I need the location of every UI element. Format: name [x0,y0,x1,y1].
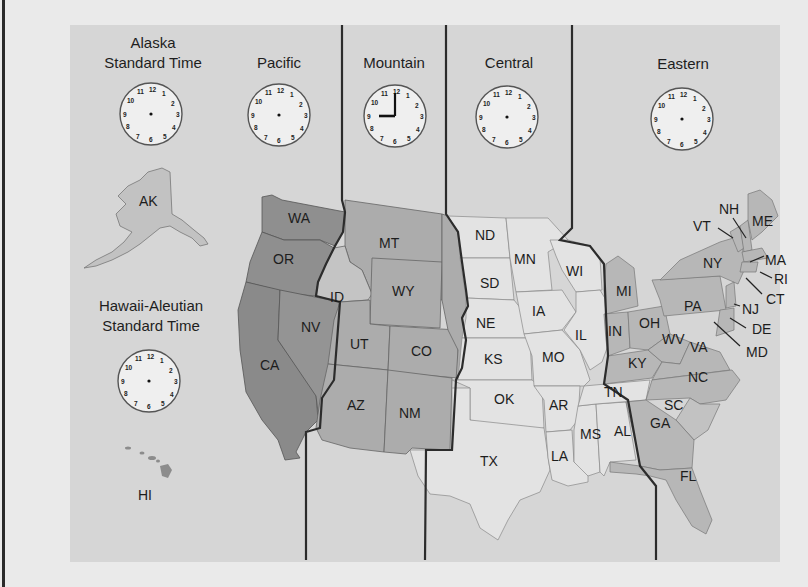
svg-text:2: 2 [171,100,175,107]
svg-text:3: 3 [707,116,711,123]
svg-text:1: 1 [518,93,522,100]
svg-text:1: 1 [162,90,166,97]
label-mo: MO [542,349,565,365]
label-oh: OH [639,315,660,331]
label-ar: AR [549,397,568,413]
svg-text:10: 10 [658,102,666,109]
svg-text:11: 11 [493,91,500,98]
svg-text:8: 8 [254,124,258,131]
svg-text:5: 5 [407,135,411,142]
svg-text:2: 2 [415,102,419,109]
svg-text:1: 1 [290,91,294,98]
label-pa: PA [684,298,702,314]
label-nv: NV [301,319,321,335]
svg-text:6: 6 [149,136,153,143]
label-il: IL [575,327,587,343]
svg-text:2: 2 [169,367,173,374]
label-nd: ND [475,227,495,243]
clock-central: 121 23 45 67 89 1011 [476,86,538,148]
svg-text:8: 8 [124,390,128,397]
label-nc: NC [688,369,708,385]
svg-text:6: 6 [393,138,397,145]
svg-text:2: 2 [527,103,531,110]
svg-text:4: 4 [703,129,707,136]
svg-text:4: 4 [528,127,532,134]
svg-text:9: 9 [367,113,371,120]
label-hi: HI [138,487,152,503]
svg-text:10: 10 [255,98,263,105]
svg-text:1: 1 [693,95,697,102]
label-sc: SC [664,397,683,413]
state-fl [610,462,712,534]
label-in: IN [608,323,622,339]
label-ak: AK [139,193,158,209]
svg-text:12: 12 [147,353,155,360]
svg-text:11: 11 [135,355,142,362]
svg-text:6: 6 [277,137,281,144]
svg-text:8: 8 [370,125,374,132]
svg-text:12: 12 [505,89,513,96]
label-ny: NY [703,255,723,271]
svg-text:9: 9 [479,114,483,121]
label-wv: WV [662,331,685,347]
svg-text:8: 8 [482,126,486,133]
state-hi [125,447,172,479]
label-ok: OK [494,391,515,407]
zone-title-line1: Eastern [598,54,768,74]
label-ri: RI [774,271,788,287]
label-nm: NM [399,405,421,421]
label-ks: KS [484,351,503,367]
svg-text:5: 5 [694,138,698,145]
svg-text:8: 8 [657,128,661,135]
label-nj: NJ [742,301,759,317]
label-wa: WA [288,210,311,226]
label-de: DE [752,321,771,337]
label-ga: GA [650,415,671,431]
svg-text:4: 4 [172,124,176,131]
svg-text:10: 10 [127,97,135,104]
svg-text:9: 9 [123,111,127,118]
svg-text:3: 3 [176,111,180,118]
label-ut: UT [350,336,369,352]
state-ct [740,262,758,272]
svg-text:8: 8 [126,123,130,130]
time-zone-map: AK HI WA OR ID NV CA MT WY UT CO AZ NM N… [0,0,808,587]
svg-text:3: 3 [304,112,308,119]
clock-mountain: 121 23 45 67 89 1011 [364,85,426,147]
label-sd: SD [480,275,499,291]
svg-text:11: 11 [137,88,144,95]
svg-text:5: 5 [163,133,167,140]
label-ne: NE [476,315,495,331]
label-id: ID [330,289,344,305]
svg-text:10: 10 [125,364,133,371]
label-tx: TX [480,453,499,469]
svg-text:7: 7 [667,138,671,145]
svg-text:4: 4 [416,126,420,133]
svg-text:11: 11 [668,93,675,100]
zone-title-eastern: Eastern [598,54,768,74]
label-ia: IA [532,303,546,319]
clock-pacific: 121 23 45 67 89 1011 [248,84,310,146]
svg-text:7: 7 [134,400,138,407]
svg-text:6: 6 [680,141,684,148]
svg-text:2: 2 [702,105,706,112]
zone-title-hawaii: Hawaii-Aleutian Standard Time [66,296,236,336]
label-ma: MA [765,252,787,268]
svg-text:3: 3 [420,113,424,120]
svg-text:5: 5 [291,134,295,141]
zone-title-line1: Central [424,53,594,73]
svg-text:9: 9 [654,116,658,123]
svg-text:1: 1 [160,357,164,364]
svg-text:4: 4 [300,125,304,132]
label-vt: VT [693,218,711,234]
svg-text:12: 12 [277,87,285,94]
clock-eastern: 121 23 45 67 89 1011 [651,88,713,150]
label-ky: KY [628,355,647,371]
svg-text:2: 2 [299,101,303,108]
svg-text:12: 12 [680,91,688,98]
label-me: ME [752,213,773,229]
svg-text:3: 3 [532,114,536,121]
label-mt: MT [379,235,400,251]
zone-title-line1: Hawaii-Aleutian [66,296,236,316]
svg-text:11: 11 [265,89,272,96]
